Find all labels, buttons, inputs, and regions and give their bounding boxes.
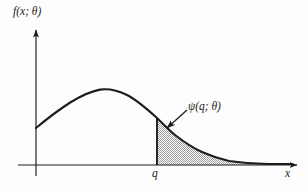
y-axis-label: f(x; θ) [13, 6, 41, 18]
tail-region-label: ψ(q; θ) [188, 101, 221, 113]
figure-canvas [0, 0, 308, 191]
tail-shaded-region [157, 118, 292, 165]
density-figure: f(x; θ) x q ψ(q; θ) [0, 0, 308, 191]
x-axis-label: x [285, 168, 290, 180]
threshold-label-q: q [152, 168, 158, 180]
annotation-arrow [167, 110, 187, 128]
